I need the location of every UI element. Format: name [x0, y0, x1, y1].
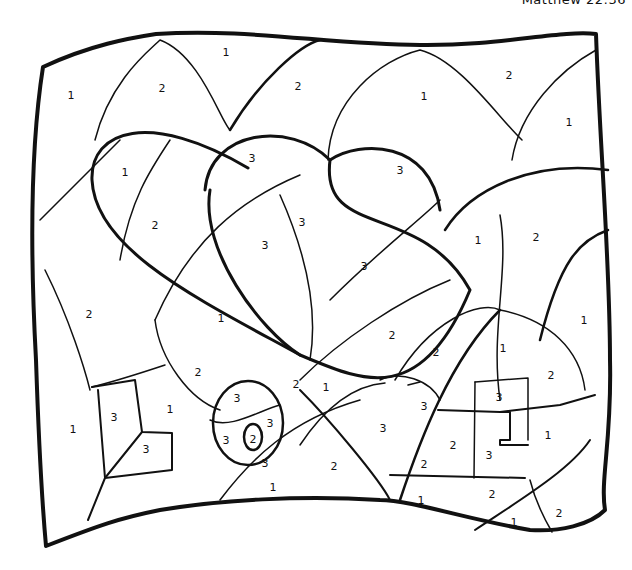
- region-number-label: 3: [262, 458, 269, 469]
- region-number-label: 3: [223, 435, 230, 446]
- region-number-label: 3: [267, 418, 274, 429]
- region-number-label: 2: [389, 330, 396, 341]
- region-number-label: 1: [475, 235, 482, 246]
- region-number-label: 3: [380, 423, 387, 434]
- region-number-label: 3: [249, 153, 256, 164]
- region-number-label: 3: [361, 261, 368, 272]
- region-number-label: 2: [152, 220, 159, 231]
- region-number-label: 1: [270, 482, 277, 493]
- region-number-label: 2: [86, 309, 93, 320]
- region-number-label: 2: [250, 434, 257, 445]
- region-number-label: 1: [167, 404, 174, 415]
- region-number-label: 3: [143, 444, 150, 455]
- region-number-label: 3: [421, 401, 428, 412]
- region-number-label: 1: [223, 47, 230, 58]
- region-number-label: 3: [496, 392, 503, 403]
- region-number-label: 1: [545, 430, 552, 441]
- region-number-label: 1: [122, 167, 129, 178]
- coloring-page-drawing: [0, 0, 632, 570]
- region-number-label: 2: [293, 379, 300, 390]
- region-number-label: 2: [295, 81, 302, 92]
- region-number-label: 2: [450, 440, 457, 451]
- region-number-label: 1: [70, 424, 77, 435]
- region-number-label: 1: [581, 315, 588, 326]
- region-number-label: 2: [433, 347, 440, 358]
- region-number-label: 2: [548, 370, 555, 381]
- region-number-label: 1: [68, 90, 75, 101]
- region-number-label: 2: [421, 459, 428, 470]
- region-number-label: 3: [397, 165, 404, 176]
- region-number-label: 3: [262, 240, 269, 251]
- region-number-label: 1: [218, 313, 225, 324]
- region-number-label: 2: [159, 83, 166, 94]
- region-number-label: 2: [533, 232, 540, 243]
- region-number-label: 1: [511, 517, 518, 528]
- frame-border: [32, 33, 610, 546]
- region-number-label: 1: [323, 382, 330, 393]
- region-number-label: 1: [566, 117, 573, 128]
- region-number-label: 3: [299, 217, 306, 228]
- region-number-label: 1: [421, 91, 428, 102]
- region-number-label: 1: [500, 343, 507, 354]
- region-number-label: 2: [556, 508, 563, 519]
- region-number-label: 2: [331, 461, 338, 472]
- region-number-label: 3: [234, 393, 241, 404]
- region-number-label: 1: [418, 495, 425, 506]
- region-number-label: 3: [486, 450, 493, 461]
- region-number-label: 2: [195, 367, 202, 378]
- region-number-label: 3: [111, 412, 118, 423]
- region-number-label: 2: [506, 70, 513, 81]
- region-number-label: 2: [489, 489, 496, 500]
